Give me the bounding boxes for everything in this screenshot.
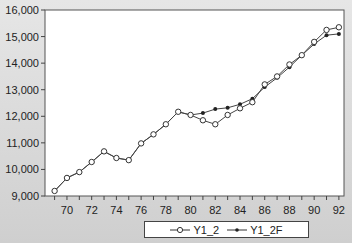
x-tick-label: 78 [160, 204, 172, 216]
data-point [126, 157, 131, 162]
data-point [325, 33, 329, 37]
data-point [213, 107, 217, 111]
open-circle-marker-icon [170, 226, 190, 234]
data-point [336, 25, 341, 30]
x-tick-label: 88 [283, 204, 295, 216]
y-tick-label: 11,000 [6, 137, 39, 149]
data-point [176, 109, 181, 114]
y-tick-label: 13,000 [5, 84, 39, 96]
data-point [225, 112, 230, 117]
x-tick-label: 72 [86, 204, 98, 216]
data-point [201, 111, 205, 115]
data-point [188, 112, 193, 117]
plot-area [45, 10, 344, 196]
x-tick-label: 74 [110, 204, 122, 216]
y-tick-label: 16,000 [5, 4, 39, 16]
data-point [262, 82, 267, 87]
y-tick-label: 12,000 [5, 110, 39, 122]
legend-label: Y1_2F [250, 224, 282, 236]
data-point [52, 188, 57, 193]
legend: Y1_2 Y1_2F [144, 221, 309, 238]
filled-dot-marker-icon [227, 226, 247, 234]
y-tick-label: 14,000 [5, 57, 39, 69]
data-point [337, 32, 341, 36]
x-tick-label: 82 [209, 204, 221, 216]
data-point [163, 122, 168, 127]
data-point [287, 62, 292, 67]
data-point [200, 118, 205, 123]
data-point [114, 155, 119, 160]
x-tick-label: 84 [234, 204, 246, 216]
data-point [64, 175, 69, 180]
y-tick-label: 10,000 [5, 163, 39, 175]
legend-item-y1-2: Y1_2 [170, 224, 219, 236]
data-point [226, 106, 230, 110]
legend-item-y1-2f: Y1_2F [227, 224, 282, 236]
x-tick-label: 80 [184, 204, 196, 216]
data-point [311, 39, 316, 44]
x-tick-label: 86 [259, 204, 271, 216]
data-point [101, 149, 106, 154]
line-chart: 9,00010,00011,00012,00013,00014,00015,00… [0, 0, 352, 243]
data-point [250, 100, 255, 105]
x-tick-label: 90 [308, 204, 320, 216]
data-point [138, 141, 143, 146]
y-tick-label: 15,000 [5, 31, 39, 43]
data-point [237, 106, 242, 111]
data-point [324, 27, 329, 32]
data-point [274, 74, 279, 79]
x-tick-label: 76 [135, 204, 147, 216]
data-point [151, 132, 156, 137]
y-tick-label: 9,000 [11, 190, 39, 202]
data-point [299, 52, 304, 57]
x-tick-label: 70 [61, 204, 73, 216]
data-point [77, 169, 82, 174]
data-point [89, 159, 94, 164]
x-tick-label: 92 [333, 204, 345, 216]
data-point [213, 122, 218, 127]
legend-label: Y1_2 [193, 224, 219, 236]
